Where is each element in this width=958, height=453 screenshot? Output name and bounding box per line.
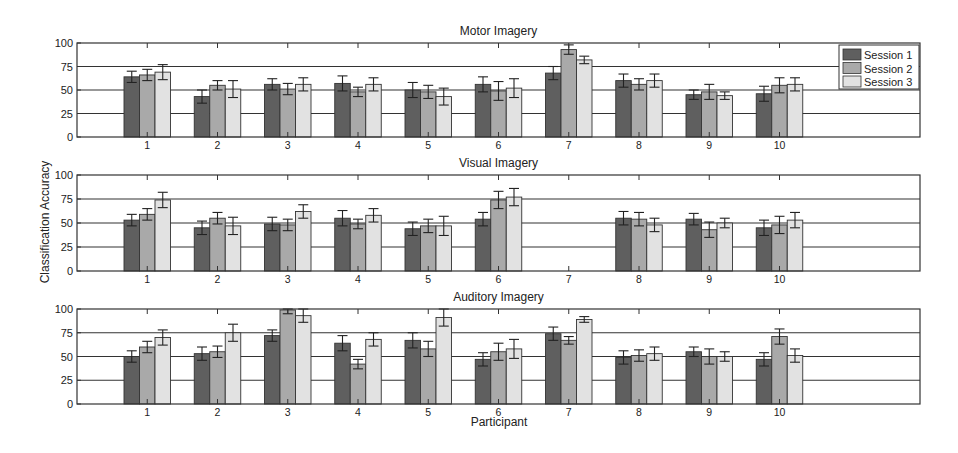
panel-title: Visual Imagery xyxy=(459,156,538,170)
bar xyxy=(436,318,452,404)
x-tick-label: 8 xyxy=(636,406,642,418)
x-tick-label: 9 xyxy=(706,406,712,418)
y-tick-label: 50 xyxy=(61,84,73,96)
x-tick-label: 9 xyxy=(706,273,712,285)
panel-auditory-imagery: 123456789100255075100Auditory Imagery xyxy=(55,290,920,418)
x-tick-label: 7 xyxy=(566,406,572,418)
bar xyxy=(350,364,366,404)
bar xyxy=(686,95,702,137)
y-tick-label: 75 xyxy=(61,327,73,339)
bar xyxy=(647,354,663,404)
x-tick-label: 4 xyxy=(355,406,361,418)
x-tick-label: 2 xyxy=(215,139,221,151)
bar xyxy=(561,50,577,137)
bar xyxy=(787,356,803,404)
bar-chart-figure: 123456789100255075100Motor Imagery123456… xyxy=(0,0,958,453)
bar xyxy=(631,356,647,404)
bar xyxy=(366,215,382,271)
y-tick-label: 75 xyxy=(61,193,73,205)
bar xyxy=(506,197,522,271)
x-axis-label: Participant xyxy=(471,415,528,429)
bar xyxy=(491,200,507,271)
bar xyxy=(787,84,803,137)
x-tick-label: 10 xyxy=(774,273,786,285)
x-tick-label: 6 xyxy=(496,139,502,151)
y-tick-label: 100 xyxy=(55,303,73,315)
bar xyxy=(616,218,632,271)
bar xyxy=(366,339,382,404)
x-tick-label: 9 xyxy=(706,139,712,151)
bar xyxy=(210,352,226,404)
x-tick-label: 1 xyxy=(144,139,150,151)
y-tick-label: 100 xyxy=(55,37,73,49)
x-tick-label: 3 xyxy=(285,273,291,285)
y-tick-label: 75 xyxy=(61,61,73,73)
bar xyxy=(772,337,788,404)
bar xyxy=(296,84,312,137)
legend-label: Session 2 xyxy=(864,63,912,75)
bar xyxy=(405,340,421,404)
bar xyxy=(686,219,702,271)
bar xyxy=(717,96,733,137)
bar xyxy=(296,316,312,404)
bar xyxy=(631,219,647,271)
bar xyxy=(350,224,366,271)
bar xyxy=(155,338,171,405)
x-tick-label: 2 xyxy=(215,273,221,285)
y-axis-label: Classification Accuracy xyxy=(38,161,52,284)
bar xyxy=(686,352,702,404)
bar xyxy=(155,200,171,271)
bar xyxy=(366,84,382,137)
legend-label: Session 1 xyxy=(864,49,912,61)
x-tick-label: 1 xyxy=(144,406,150,418)
bar xyxy=(647,81,663,137)
bar xyxy=(124,77,140,137)
y-tick-label: 25 xyxy=(61,108,73,120)
x-tick-label: 7 xyxy=(566,139,572,151)
y-tick-label: 0 xyxy=(67,398,73,410)
x-tick-label: 3 xyxy=(285,406,291,418)
x-tick-label: 1 xyxy=(144,273,150,285)
bar xyxy=(421,349,437,404)
x-tick-label: 10 xyxy=(774,406,786,418)
x-tick-label: 5 xyxy=(425,273,431,285)
legend-swatch xyxy=(843,76,861,87)
bar xyxy=(546,73,562,137)
bar xyxy=(140,214,156,271)
y-tick-label: 0 xyxy=(67,265,73,277)
bar xyxy=(296,211,312,271)
bar xyxy=(335,343,351,404)
x-tick-label: 8 xyxy=(636,273,642,285)
legend-swatch xyxy=(843,49,861,60)
x-tick-label: 10 xyxy=(774,139,786,151)
bar xyxy=(631,84,647,137)
bar xyxy=(210,85,226,137)
y-tick-label: 25 xyxy=(61,241,73,253)
bar xyxy=(124,220,140,271)
bar xyxy=(577,319,593,404)
bar xyxy=(140,75,156,137)
y-tick-label: 100 xyxy=(55,169,73,181)
x-tick-label: 7 xyxy=(566,273,572,285)
y-tick-label: 0 xyxy=(67,131,73,143)
y-tick-label: 50 xyxy=(61,217,73,229)
y-tick-label: 25 xyxy=(61,374,73,386)
bar xyxy=(577,60,593,137)
legend: Session 1Session 2Session 3 xyxy=(839,45,919,89)
bar xyxy=(475,219,491,271)
x-tick-label: 4 xyxy=(355,273,361,285)
panel-title: Auditory Imagery xyxy=(453,290,544,304)
bar xyxy=(155,72,171,137)
bar xyxy=(210,218,226,271)
legend-swatch xyxy=(843,63,861,74)
bar xyxy=(546,334,562,404)
bar xyxy=(280,225,296,271)
x-tick-label: 5 xyxy=(425,406,431,418)
bar xyxy=(616,81,632,137)
bar xyxy=(280,310,296,404)
bar xyxy=(265,336,281,404)
bar xyxy=(717,357,733,405)
y-tick-label: 50 xyxy=(61,351,73,363)
bar xyxy=(124,357,140,405)
x-tick-label: 8 xyxy=(636,139,642,151)
